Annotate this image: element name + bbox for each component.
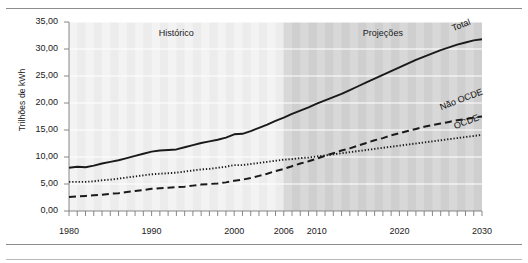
plot-stripe bbox=[152, 22, 160, 211]
plot-stripe bbox=[135, 22, 143, 211]
plot-stripe bbox=[86, 22, 94, 211]
x-tick-label: 2030 bbox=[472, 226, 492, 236]
plot-stripe bbox=[267, 22, 275, 211]
x-tick-label: 2006 bbox=[274, 226, 294, 236]
y-tick-label: 0,00 bbox=[12, 206, 58, 215]
plot-stripe bbox=[251, 22, 259, 211]
y-tick-label: 35,00 bbox=[12, 17, 58, 26]
plot-stripe bbox=[234, 22, 242, 211]
plot-canvas bbox=[0, 0, 528, 263]
y-axis-label: Trilhões de kWh bbox=[17, 45, 27, 155]
chart-figure: 35,0030,0025,0020,0015,0010,005,000,00 T… bbox=[0, 0, 528, 263]
zone-label-historico: Histórico bbox=[159, 28, 194, 38]
x-tick-label: 1980 bbox=[59, 226, 79, 236]
x-tick-label: 2000 bbox=[224, 226, 244, 236]
x-tick-label: 2020 bbox=[389, 226, 409, 236]
x-tick-label: 2010 bbox=[307, 226, 327, 236]
plot-stripe bbox=[168, 22, 176, 211]
plot-stripe bbox=[383, 22, 391, 211]
plot-stripe bbox=[201, 22, 209, 211]
plot-stripe bbox=[119, 22, 127, 211]
plot-stripe bbox=[185, 22, 193, 211]
plot-stripe bbox=[333, 22, 341, 211]
plot-stripe bbox=[317, 22, 325, 211]
plot-stripe bbox=[416, 22, 424, 211]
plot-stripe bbox=[366, 22, 374, 211]
plot-stripe bbox=[102, 22, 110, 211]
plot-stripe bbox=[350, 22, 358, 211]
plot-stripe bbox=[449, 22, 457, 211]
zone-label-projecoes: Projeções bbox=[363, 28, 403, 38]
y-tick-label: 5,00 bbox=[12, 179, 58, 188]
plot-stripe bbox=[300, 22, 308, 211]
x-tick-label: 1990 bbox=[142, 226, 162, 236]
plot-stripe bbox=[399, 22, 407, 211]
